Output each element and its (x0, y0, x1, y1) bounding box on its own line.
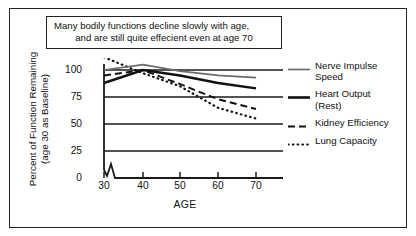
x-tick-label-group: 30 40 50 60 70 (0, 181, 416, 195)
y-tick-label-group: 100 75 50 25 0 (54, 0, 82, 236)
x-axis-title: AGE (140, 199, 230, 210)
y-tick-label: 50 (56, 119, 82, 129)
x-tick-label: 40 (130, 181, 156, 191)
gridlines (104, 70, 283, 151)
legend-label: Nerve Impulse Speed (315, 60, 377, 82)
y-tick-label: 25 (56, 146, 82, 156)
legend-item-nerve-impulse-speed: Nerve Impulse Speed (288, 60, 410, 82)
x-tick-label: 30 (91, 181, 117, 191)
legend-label: Kidney Efficiency (315, 117, 389, 128)
x-tick-label: 70 (243, 181, 269, 191)
legend-item-heart-output-rest: Heart Output (Rest) (288, 88, 410, 110)
legend-label: Lung Capacity (315, 135, 377, 146)
y-axis-title-line-2: (age 30 as Baseline) (39, 74, 51, 164)
legend-swatch-dashed-icon (288, 118, 310, 129)
plot-area (86, 58, 283, 179)
caption-line-2: and are still quite effecient even at ag… (75, 32, 252, 44)
x-tick-label: 50 (167, 181, 193, 191)
chart-canvas (86, 58, 283, 179)
legend-swatch-solid-thin-icon (288, 61, 310, 72)
axis-break-symbol (104, 164, 119, 178)
legend-swatch-dotted-icon (288, 136, 310, 147)
legend-swatch-solid-thick-icon (288, 89, 310, 100)
x-tick-label: 60 (205, 181, 231, 191)
legend-item-lung-capacity: Lung Capacity (288, 135, 410, 147)
y-tick-label: 100 (56, 65, 82, 75)
y-axis-title-line-1: Percent of Function Remaining (27, 52, 39, 187)
chart-legend: Nerve Impulse Speed Heart Output (Rest) … (288, 60, 410, 153)
legend-item-kidney-efficiency: Kidney Efficiency (288, 117, 410, 129)
figure-root: Many bodily functions decline slowly wit… (0, 0, 416, 236)
legend-label: Heart Output (Rest) (315, 88, 370, 110)
y-axis-title: Percent of Function Remaining (age 30 as… (24, 39, 54, 199)
y-tick-label: 75 (56, 92, 82, 102)
